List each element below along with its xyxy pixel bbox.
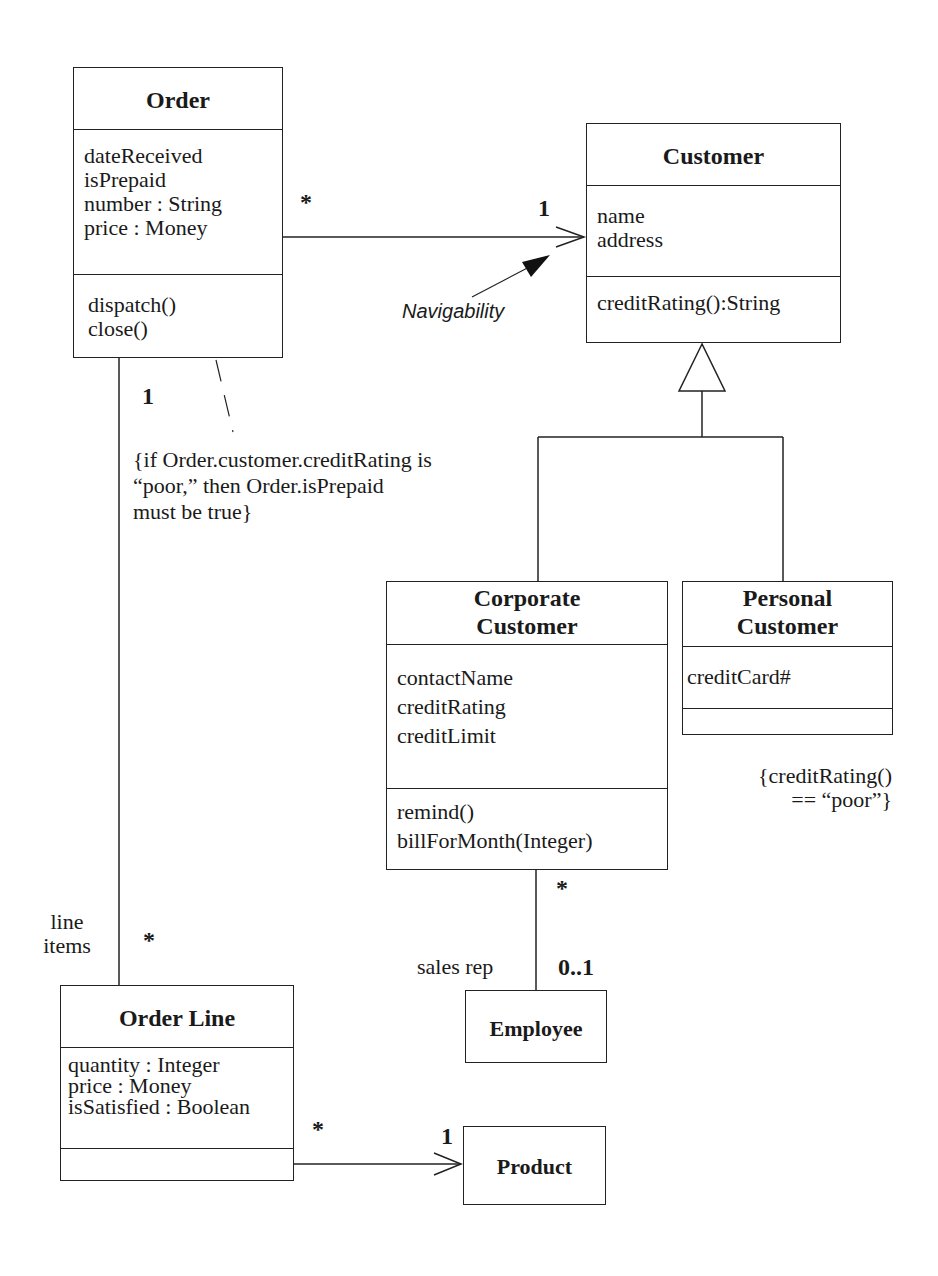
operations-compartment xyxy=(683,708,892,734)
attribute: dateReceived xyxy=(84,144,222,168)
attribute: creditCard# xyxy=(687,665,791,689)
class-name: Customer xyxy=(587,142,840,170)
navigability-label: Navigability xyxy=(402,300,504,323)
class-name: Product xyxy=(464,1153,605,1181)
order-constraint-note: {if Order.customer.creditRating is “poor… xyxy=(133,447,432,525)
operation: dispatch() xyxy=(88,293,176,317)
class-customer[interactable]: Customer name address creditRating():Str… xyxy=(586,123,841,343)
attribute: name xyxy=(597,204,663,228)
class-name-line2: Customer xyxy=(683,612,892,640)
attribute: creditRating xyxy=(397,692,513,721)
multiplicity-orderline-to-product-target: 1 xyxy=(441,1124,453,1148)
attribute: number : String xyxy=(84,192,222,216)
class-name: Personal Customer xyxy=(683,584,892,640)
multiplicity-order-to-customer-source: * xyxy=(300,190,312,214)
operations-compartment xyxy=(61,1148,293,1180)
attributes-compartment: dateReceived isPrepaid number : String p… xyxy=(74,129,282,274)
operations-compartment: dispatch() close() xyxy=(74,274,282,357)
class-order-line[interactable]: Order Line quantity : Integer price : Mo… xyxy=(60,985,294,1181)
attributes-compartment: creditCard# xyxy=(683,646,892,708)
class-name-line1: Corporate xyxy=(387,584,667,612)
attribute: isSatisfied : Boolean xyxy=(68,1096,250,1117)
operation: close() xyxy=(88,317,176,341)
attribute: quantity : Integer xyxy=(68,1054,250,1075)
generalization-triangle-icon xyxy=(679,344,725,391)
class-name-line1: Personal xyxy=(683,584,892,612)
attribute: creditLimit xyxy=(397,721,513,750)
class-personal-customer[interactable]: Personal Customer creditCard# xyxy=(682,581,893,735)
operation: remind() xyxy=(397,797,593,826)
attributes-compartment: name address xyxy=(587,185,840,276)
navigability-pointer xyxy=(472,265,533,297)
class-corporate-customer[interactable]: Corporate Customer contactName creditRat… xyxy=(386,581,668,870)
multiplicity-order-to-orderline-target: * xyxy=(143,928,155,952)
role-line-items: line items xyxy=(32,910,102,958)
multiplicity-corporate-to-employee-target: 0..1 xyxy=(558,955,594,979)
attribute: contactName xyxy=(397,663,513,692)
operations-compartment: remind() billForMonth(Integer) xyxy=(387,788,667,869)
attribute: address xyxy=(597,228,663,252)
attributes-compartment: quantity : Integer price : Money isSatis… xyxy=(61,1047,293,1148)
multiplicity-order-to-orderline-source: 1 xyxy=(142,384,154,408)
attribute: price : Money xyxy=(84,216,222,240)
attribute: price : Money xyxy=(68,1075,250,1096)
operations-compartment: creditRating():String xyxy=(587,276,840,342)
filled-arrowhead-icon xyxy=(522,255,550,277)
multiplicity-corporate-to-employee-source: * xyxy=(556,876,568,900)
attributes-compartment: contactName creditRating creditLimit xyxy=(387,644,667,788)
attribute: isPrepaid xyxy=(84,168,222,192)
class-name: Order xyxy=(74,86,282,114)
class-name: Order Line xyxy=(61,1004,293,1032)
class-product[interactable]: Product xyxy=(463,1126,606,1205)
class-employee[interactable]: Employee xyxy=(465,990,607,1063)
operation: creditRating():String xyxy=(597,291,780,315)
class-name: Employee xyxy=(466,1015,606,1043)
class-order[interactable]: Order dateReceived isPrepaid number : St… xyxy=(73,67,283,358)
operation: billForMonth(Integer) xyxy=(397,826,593,855)
constraint-dashed-line xyxy=(216,360,233,432)
multiplicity-orderline-to-product-source: * xyxy=(312,1117,324,1141)
multiplicity-order-to-customer-target: 1 xyxy=(538,196,550,220)
role-sales-rep: sales rep xyxy=(417,955,493,979)
class-name: Corporate Customer xyxy=(387,584,667,640)
personal-constraint-note: {creditRating() == “poor”} xyxy=(730,764,892,812)
class-name-line2: Customer xyxy=(387,612,667,640)
